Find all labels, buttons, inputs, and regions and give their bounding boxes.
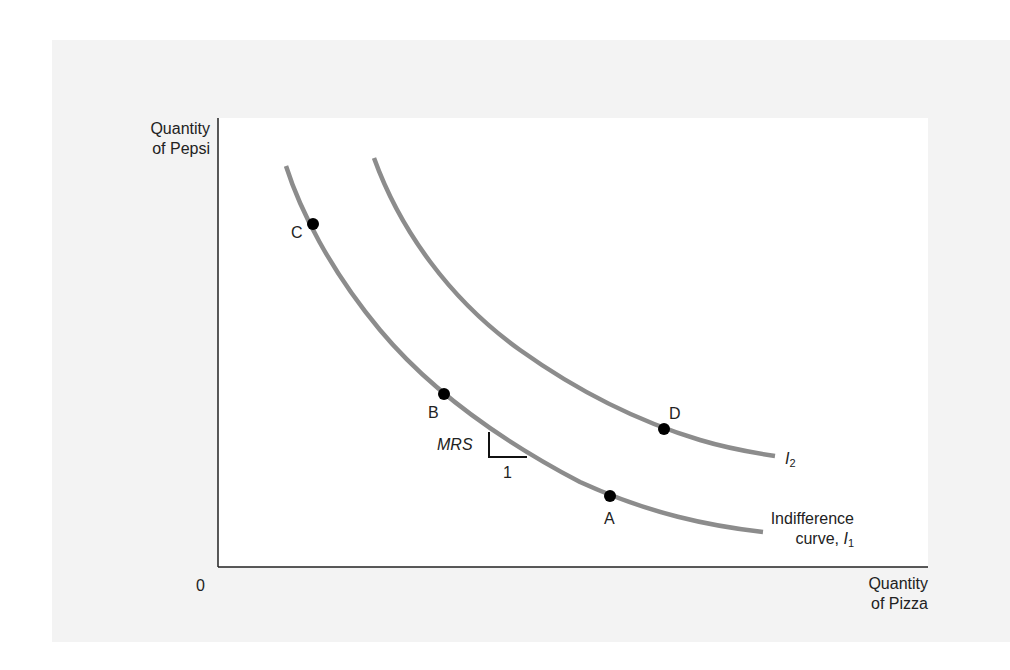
chart-svg: [0, 0, 1010, 670]
i1-subscript: 1: [848, 537, 854, 549]
mrs-run-label: 1: [503, 463, 512, 483]
point-d-marker: [658, 423, 670, 435]
i2-subscript: 2: [789, 457, 795, 469]
point-c-label: C: [291, 223, 303, 243]
mrs-label: MRS: [437, 435, 473, 455]
y-axis-label: Quantity of Pepsi: [110, 119, 210, 159]
point-b-label: B: [428, 403, 439, 423]
x-axis-label: Quantity of Pizza: [828, 574, 928, 614]
x-axis-label-line2: of Pizza: [828, 594, 928, 614]
i1-label-line2: curve, I1: [714, 529, 854, 553]
i1-label-text: curve,: [795, 530, 843, 547]
point-b-marker: [438, 388, 450, 400]
point-a-marker: [604, 490, 616, 502]
point-a-label: A: [604, 509, 615, 529]
point-c-marker: [307, 218, 319, 230]
i1-label-line1: Indifference: [714, 509, 854, 529]
i2-label: I2: [785, 449, 796, 473]
mrs-triangle: [489, 432, 527, 457]
point-d-label: D: [669, 404, 681, 424]
x-axis-label-line1: Quantity: [828, 574, 928, 594]
y-axis-label-line1: Quantity: [110, 119, 210, 139]
indifference-curve-i1: [286, 166, 763, 532]
origin-label: 0: [196, 576, 205, 596]
y-axis-label-line2: of Pepsi: [110, 139, 210, 159]
i1-label: Indifference curve, I1: [714, 509, 854, 553]
